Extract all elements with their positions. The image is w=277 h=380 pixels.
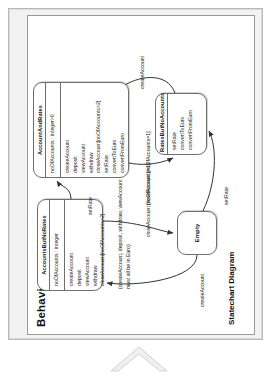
transition-label-closeaccount-guard-2: closeAccount [noOfAccounts=1]	[145, 163, 152, 237]
operation-item: viewAccount	[84, 204, 92, 286]
transition-label-createaccount-left: createAccount	[199, 274, 206, 307]
state-name: RatesButNoAccounts	[156, 94, 167, 154]
attribute-item: noOfAccounts : integer	[53, 204, 61, 286]
statechart-canvas: Behavioral Model Statechart Diagram Acco…	[27, 15, 253, 333]
operation-item: withdraw	[92, 204, 100, 286]
operation-item: convertFromEuro	[187, 98, 195, 150]
operation-item: deposit	[72, 87, 80, 173]
operation-item: convertToEuro	[179, 98, 187, 150]
chevron-up-icon	[108, 344, 170, 374]
operation-item: convertFromEuro	[119, 87, 127, 173]
operation-item: convertToEuro	[111, 87, 119, 173]
operation-item: createAccount	[68, 204, 76, 286]
operations-compartment: setRate convertToEuro convertFromEuro	[168, 94, 197, 154]
state-name: AccountAndRates	[34, 83, 45, 177]
state-name: AccountsButNoRates	[38, 200, 49, 290]
screenshot-root: Behavioral Model Statechart Diagram Acco…	[0, 0, 277, 380]
operation-item: viewAccount	[80, 87, 88, 173]
operation-item: closeAccount[noOfAccounts>2]	[99, 204, 107, 286]
operation-item: createAccount	[64, 87, 72, 173]
operation-item: closeAccount[noOfAccounts>2]	[95, 87, 103, 173]
attributes-compartment: noOfAccounts : integer	[50, 200, 64, 290]
operation-item: setRate	[171, 98, 179, 150]
transition-label-setrate-left: setRate	[87, 197, 94, 215]
operation-item: withdraw	[88, 87, 96, 173]
operation-item: deposit	[76, 204, 84, 286]
operations-compartment: createAccount deposit viewAccount withdr…	[61, 83, 129, 177]
transition-label-setrate-bottom: setRate	[223, 187, 230, 205]
constraint-note: (createAccount, deposit, withdraw, viewA…	[117, 171, 132, 289]
operation-item: setRate	[103, 87, 111, 173]
slide-frame: Behavioral Model Statechart Diagram Acco…	[8, 8, 263, 340]
transition-label-createaccount-right: createAccount	[139, 56, 146, 89]
attributes-compartment: noOfAccounts : integer>0	[46, 83, 60, 177]
rotated-content: Behavioral Model Statechart Diagram Acco…	[27, 15, 253, 333]
state-empty[interactable]: Empty	[177, 211, 217, 255]
state-ratesbutnoaccounts[interactable]: RatesButNoAccounts setRate convertToEuro…	[155, 93, 207, 155]
state-name: Empty	[194, 224, 201, 243]
attribute-item: noOfAccounts : integer>0	[49, 87, 57, 173]
state-accountandrates[interactable]: AccountAndRates noOfAccounts : integer>0…	[33, 82, 129, 178]
